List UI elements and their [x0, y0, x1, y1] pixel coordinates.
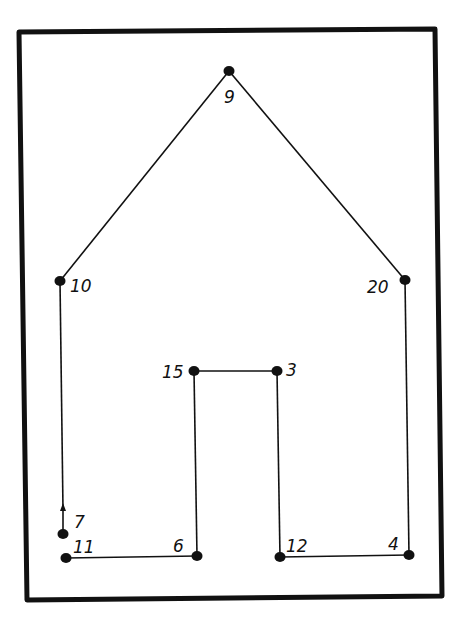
connecting-lines: [60, 71, 409, 558]
line-15-to-6: [194, 371, 197, 556]
dot-4: 4: [388, 534, 415, 560]
dot-marker-icon: [400, 275, 411, 285]
line-9-to-20: [229, 71, 405, 280]
arrow-line: [60, 281, 63, 510]
dot-marker-icon: [55, 276, 66, 286]
dot-marker-icon: [404, 550, 415, 560]
dot-marker-icon: [61, 553, 72, 563]
dot-6: 6: [173, 536, 203, 561]
dot-to-dot-diagram: 910201537116124: [0, 0, 459, 633]
dot-label: 3: [286, 360, 297, 380]
dot-label: 7: [74, 512, 85, 532]
dot-label: 12: [286, 536, 308, 556]
dot-label: 20: [367, 277, 389, 297]
dot-9: 9: [224, 66, 235, 107]
dot-label: 6: [173, 536, 184, 556]
dot-label: 4: [388, 534, 399, 554]
dot-marker-icon: [192, 551, 203, 561]
dot-20: 20: [367, 275, 411, 297]
dot-marker-icon: [275, 552, 286, 562]
dot-marker-icon: [189, 366, 200, 376]
numbered-dots: 910201537116124: [55, 66, 415, 563]
dot-label: 10: [70, 276, 92, 296]
dot-3: 3: [272, 360, 297, 380]
dot-marker-icon: [224, 66, 235, 76]
line-10-to-9: [60, 71, 229, 281]
dot-marker-icon: [58, 529, 69, 539]
dot-7: 7: [58, 512, 86, 539]
dot-marker-icon: [272, 366, 283, 376]
dot-label: 15: [162, 362, 184, 382]
dot-label: 9: [224, 87, 235, 107]
arrowhead-icon: [60, 503, 66, 511]
line-20-to-4: [405, 280, 409, 555]
dot-label: 11: [73, 537, 95, 557]
dot-11: 11: [61, 537, 95, 563]
start-arrow: [60, 281, 66, 534]
line-12-to-3: [277, 371, 280, 557]
